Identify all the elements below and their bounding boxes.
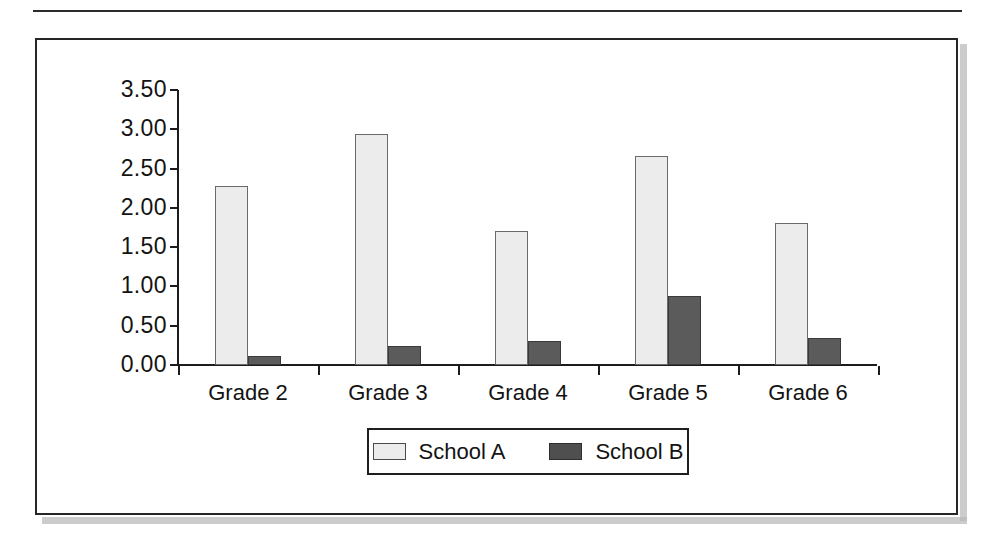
chart-legend: School A School B xyxy=(367,428,689,475)
y-axis-tick-mark xyxy=(170,246,178,248)
bar-school-b-grade-2 xyxy=(248,356,281,365)
figure-shadow-right xyxy=(960,44,967,521)
x-axis-tick-mark xyxy=(178,366,180,375)
x-axis-tick-mark xyxy=(458,366,460,375)
bar-school-a-grade-5 xyxy=(635,156,668,365)
x-axis-tick-mark xyxy=(598,366,600,375)
legend-entry-school-b: School B xyxy=(549,440,683,464)
y-axis-tick-mark xyxy=(170,325,178,327)
y-axis-tick-mark xyxy=(170,168,178,170)
bar-school-b-grade-5 xyxy=(668,296,701,365)
y-axis-tick-mark xyxy=(170,128,178,130)
legend-label-school-a: School A xyxy=(419,440,506,464)
y-axis-tick-label: 3.00 xyxy=(81,117,167,140)
x-axis-tick-mark xyxy=(738,366,740,375)
figure-shadow-bottom xyxy=(42,517,967,524)
legend-label-school-b: School B xyxy=(595,440,683,464)
legend-swatch-school-a-icon xyxy=(373,443,406,460)
bar-school-b-grade-4 xyxy=(528,341,561,365)
y-axis-tick-mark xyxy=(170,364,178,366)
y-axis-tick-label: 1.00 xyxy=(81,274,167,297)
bar-school-a-grade-4 xyxy=(495,231,528,365)
x-axis-category-label: Grade 5 xyxy=(598,380,738,406)
x-axis-category-label: Grade 4 xyxy=(458,380,598,406)
x-axis-tick-mark xyxy=(878,366,880,375)
y-axis-tick-mark xyxy=(170,89,178,91)
y-axis-tick-label: 2.00 xyxy=(81,196,167,219)
y-axis-tick-label: 0.50 xyxy=(81,314,167,337)
y-axis-tick-mark xyxy=(170,285,178,287)
legend-swatch-school-b-icon xyxy=(549,443,582,460)
bar-school-a-grade-6 xyxy=(775,223,808,365)
figure-frame: 3.503.002.502.001.501.000.500.00 Grade 2… xyxy=(35,38,958,515)
y-axis-tick-mark xyxy=(170,207,178,209)
bar-school-b-grade-3 xyxy=(388,346,421,365)
x-axis-category-label: Grade 2 xyxy=(178,380,318,406)
x-axis-category-label: Grade 3 xyxy=(318,380,458,406)
bar-school-a-grade-2 xyxy=(215,186,248,365)
y-axis-tick-label: 0.00 xyxy=(81,353,167,376)
top-horizontal-rule xyxy=(33,10,962,12)
y-axis-tick-label: 1.50 xyxy=(81,235,167,258)
y-axis-tick-label: 3.50 xyxy=(81,78,167,101)
bar-school-a-grade-3 xyxy=(355,134,388,365)
legend-entry-school-a: School A xyxy=(373,440,506,464)
y-axis-tick-labels: 3.503.002.502.001.501.000.500.00 xyxy=(47,40,167,380)
x-axis-category-label: Grade 6 xyxy=(738,380,878,406)
bar-school-b-grade-6 xyxy=(808,338,841,365)
bar-chart-plot-area: 3.503.002.502.001.501.000.500.00 Grade 2… xyxy=(37,40,960,517)
y-axis-tick-label: 2.50 xyxy=(81,157,167,180)
x-axis-tick-mark xyxy=(318,366,320,375)
